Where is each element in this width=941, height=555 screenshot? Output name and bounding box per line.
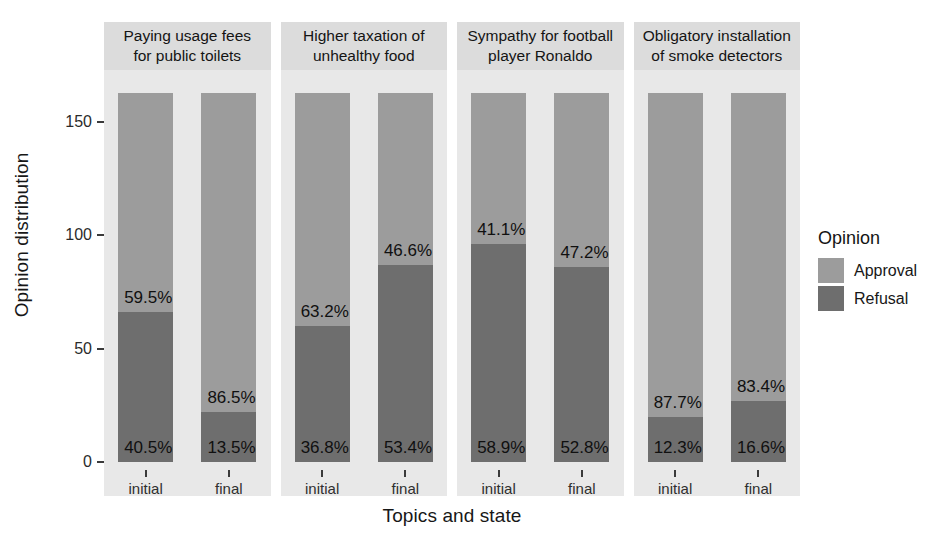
stacked-bar[interactable]: 86.5%13.5% bbox=[201, 93, 256, 462]
bar-group: 87.7%12.3%83.4%16.6% bbox=[634, 70, 801, 496]
bar-segment-refusal[interactable]: 12.3% bbox=[648, 417, 703, 462]
bar-segment-value: 12.3% bbox=[648, 438, 702, 462]
stacked-bar[interactable]: 59.5%40.5% bbox=[118, 93, 173, 462]
stacked-bar[interactable]: 47.2%52.8% bbox=[554, 93, 609, 462]
bar-segment-refusal[interactable]: 58.9% bbox=[471, 244, 526, 462]
x-tick-initial: initial bbox=[471, 466, 526, 506]
bar-group: 41.1%58.9%47.2%52.8% bbox=[457, 70, 624, 496]
y-tick-mark bbox=[97, 461, 104, 463]
x-tick-mark bbox=[321, 470, 323, 477]
y-tick: 0 bbox=[83, 453, 104, 471]
legend-swatch-refusal bbox=[818, 286, 844, 311]
bar-segment-approval[interactable]: 63.2% bbox=[295, 93, 350, 327]
bar-segment-value: 16.6% bbox=[731, 438, 785, 462]
legend-item-refusal[interactable]: Refusal bbox=[818, 286, 938, 311]
facet-panel-1: Paying usage feesfor public toilets59.5%… bbox=[104, 22, 271, 496]
facet-strip-line1: Higher taxation of bbox=[303, 27, 425, 44]
legend-item-approval[interactable]: Approval bbox=[818, 258, 938, 283]
y-axis-ticks: 150100500 bbox=[40, 0, 104, 555]
y-tick: 50 bbox=[74, 340, 104, 358]
facet-strip-line1: Sympathy for football bbox=[467, 27, 613, 44]
x-axis-panel-2: initialfinal bbox=[281, 466, 448, 506]
x-tick-mark bbox=[498, 470, 500, 477]
legend-label-refusal: Refusal bbox=[854, 290, 908, 308]
bar-segment-value: 46.6% bbox=[378, 241, 432, 265]
facet-strip-line2: unhealthy food bbox=[313, 47, 415, 64]
bar-segment-refusal[interactable]: 53.4% bbox=[378, 265, 433, 462]
x-axis-title-text: Topics and state bbox=[383, 505, 522, 526]
x-tick-label: initial bbox=[305, 480, 339, 497]
bar-segment-approval[interactable]: 46.6% bbox=[378, 93, 433, 265]
facet-strip-label: Sympathy for footballplayer Ronaldo bbox=[457, 22, 624, 70]
stacked-bar[interactable]: 46.6%53.4% bbox=[378, 93, 433, 462]
y-axis-title: Opinion distribution bbox=[4, 0, 40, 470]
stacked-bar[interactable]: 41.1%58.9% bbox=[471, 93, 526, 462]
x-tick-mark bbox=[228, 470, 230, 477]
bar-segment-value: 13.5% bbox=[201, 438, 255, 462]
bar-segment-approval[interactable]: 41.1% bbox=[471, 93, 526, 245]
y-axis-title-text: Opinion distribution bbox=[11, 153, 33, 318]
y-tick-label: 50 bbox=[74, 340, 97, 358]
y-tick: 100 bbox=[65, 226, 104, 244]
legend: Opinion Approval Refusal bbox=[818, 228, 938, 314]
facet-panel-3: Sympathy for footballplayer Ronaldo41.1%… bbox=[457, 22, 624, 496]
x-tick-label: final bbox=[745, 480, 773, 497]
stacked-bar[interactable]: 83.4%16.6% bbox=[731, 93, 786, 462]
bar-segment-value: 83.4% bbox=[731, 377, 785, 401]
bar-segment-approval[interactable]: 47.2% bbox=[554, 93, 609, 267]
x-tick-mark bbox=[145, 470, 147, 477]
bar-group: 63.2%36.8%46.6%53.4% bbox=[281, 70, 448, 496]
x-tick-mark bbox=[674, 470, 676, 477]
bar-segment-refusal[interactable]: 52.8% bbox=[554, 267, 609, 462]
x-tick-label: initial bbox=[129, 480, 163, 497]
bar-segment-approval[interactable]: 87.7% bbox=[648, 93, 703, 417]
x-tick-initial: initial bbox=[118, 466, 173, 506]
x-tick-initial: initial bbox=[295, 466, 350, 506]
bar-segment-refusal[interactable]: 36.8% bbox=[295, 326, 350, 462]
x-tick-label: final bbox=[568, 480, 596, 497]
bar-segment-approval[interactable]: 86.5% bbox=[201, 93, 256, 413]
facet-panels: Paying usage feesfor public toilets59.5%… bbox=[104, 22, 800, 496]
bar-segment-value: 86.5% bbox=[201, 388, 255, 412]
stacked-bar[interactable]: 63.2%36.8% bbox=[295, 93, 350, 462]
bar-segment-value: 36.8% bbox=[295, 438, 349, 462]
facet-plot-area: 41.1%58.9%47.2%52.8% bbox=[457, 70, 624, 496]
stacked-bar[interactable]: 87.7%12.3% bbox=[648, 93, 703, 462]
x-axis-title: Topics and state bbox=[104, 505, 800, 527]
y-tick-mark bbox=[97, 121, 104, 123]
bar-segment-approval[interactable]: 59.5% bbox=[118, 93, 173, 313]
bar-segment-value: 53.4% bbox=[378, 438, 432, 462]
x-tick-mark bbox=[404, 470, 406, 477]
bar-segment-value: 63.2% bbox=[295, 302, 349, 326]
bar-segment-refusal[interactable]: 16.6% bbox=[731, 401, 786, 462]
facet-strip-line2: for public toilets bbox=[133, 47, 241, 64]
y-tick-label: 150 bbox=[65, 113, 97, 131]
bar-segment-refusal[interactable]: 40.5% bbox=[118, 312, 173, 462]
y-tick-label: 0 bbox=[83, 453, 97, 471]
x-tick-mark bbox=[581, 470, 583, 477]
bar-group: 59.5%40.5%86.5%13.5% bbox=[104, 70, 271, 496]
legend-swatch-approval bbox=[818, 258, 844, 283]
facet-panel-4: Obligatory installationof smoke detector… bbox=[634, 22, 801, 496]
bar-segment-approval[interactable]: 83.4% bbox=[731, 93, 786, 401]
x-tick-final: final bbox=[554, 466, 609, 506]
facet-plot-area: 63.2%36.8%46.6%53.4% bbox=[281, 70, 448, 496]
x-axis-panel-3: initialfinal bbox=[457, 466, 624, 506]
bar-segment-value: 87.7% bbox=[648, 393, 702, 417]
facet-strip-line2: of smoke detectors bbox=[651, 47, 782, 64]
bar-segment-value: 52.8% bbox=[554, 438, 608, 462]
x-tick-initial: initial bbox=[648, 466, 703, 506]
bar-segment-value: 59.5% bbox=[118, 288, 172, 312]
x-tick-label: final bbox=[215, 480, 243, 497]
bar-segment-value: 41.1% bbox=[471, 220, 525, 244]
facet-strip-label: Paying usage feesfor public toilets bbox=[104, 22, 271, 70]
x-tick-mark bbox=[757, 470, 759, 477]
facet-strip-label: Obligatory installationof smoke detector… bbox=[634, 22, 801, 70]
bar-segment-value: 40.5% bbox=[118, 438, 172, 462]
bar-segment-refusal[interactable]: 13.5% bbox=[201, 412, 256, 462]
legend-label-approval: Approval bbox=[854, 262, 917, 280]
y-tick-label: 100 bbox=[65, 226, 97, 244]
facet-strip-line2: player Ronaldo bbox=[488, 47, 592, 64]
facet-plot-area: 59.5%40.5%86.5%13.5% bbox=[104, 70, 271, 496]
x-tick-label: initial bbox=[658, 480, 692, 497]
